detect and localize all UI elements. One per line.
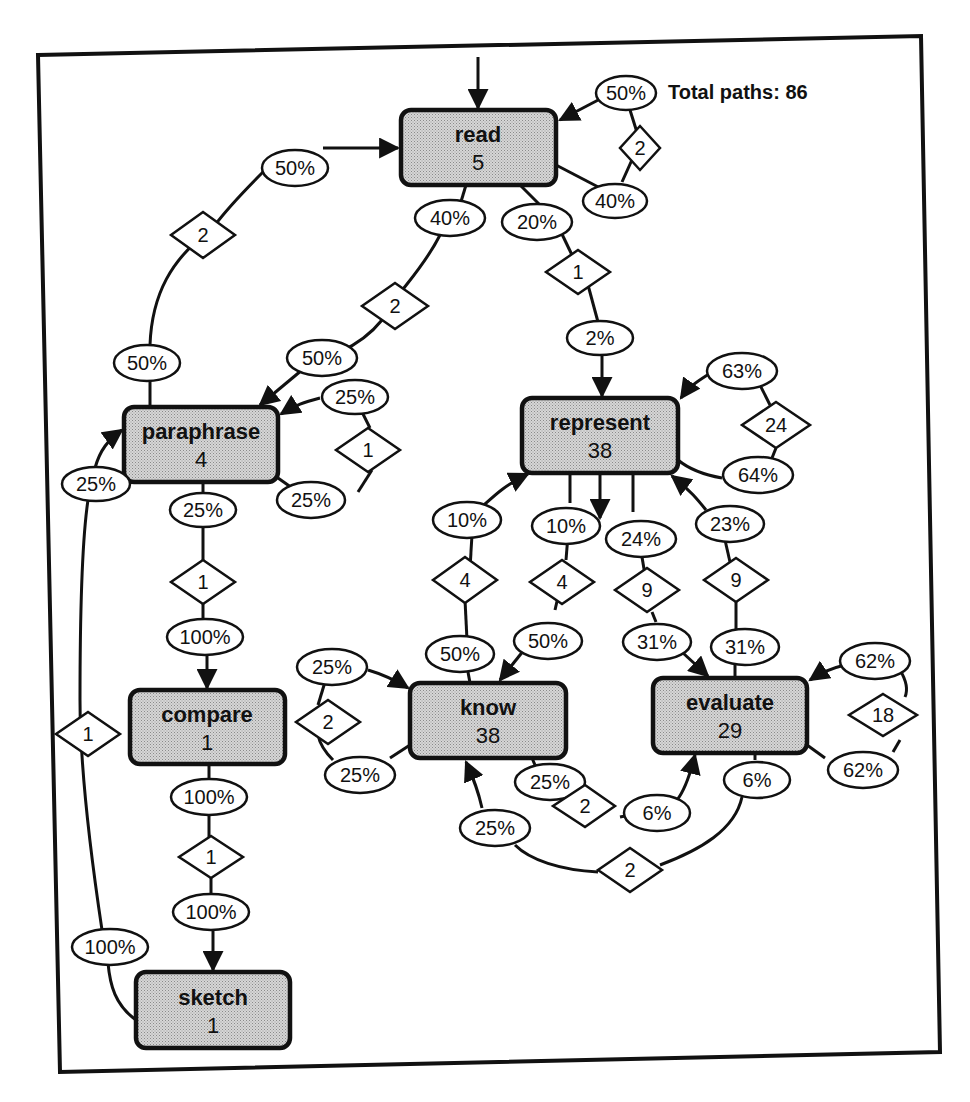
pct-label: 25%: [460, 810, 530, 846]
pct-label: 6%: [724, 762, 790, 798]
pct-label: 25%: [62, 467, 130, 501]
svg-text:2: 2: [624, 859, 635, 881]
node-count: 1: [201, 730, 213, 755]
count-diamond: 1: [336, 428, 400, 472]
node-know: know 38: [410, 683, 566, 758]
pct-label: 50%: [287, 340, 357, 376]
count-diamond: 4: [530, 560, 594, 604]
pct-label: 62%: [828, 752, 898, 788]
node-read: read 5: [401, 110, 556, 185]
count-diamond: 2: [296, 700, 360, 744]
svg-text:40%: 40%: [595, 190, 635, 212]
svg-text:24: 24: [765, 414, 787, 436]
svg-text:25%: 25%: [291, 489, 331, 511]
pct-label: 25%: [297, 649, 367, 685]
svg-text:1: 1: [362, 439, 373, 461]
node-count: 5: [472, 150, 484, 175]
node-represent: represent 38: [522, 398, 678, 473]
svg-text:50%: 50%: [275, 157, 315, 179]
pct-label: 2%: [567, 321, 633, 355]
pct-label: 23%: [696, 506, 764, 542]
count-diamond: 1: [179, 836, 243, 878]
svg-text:62%: 62%: [855, 650, 895, 672]
pct-label: 25%: [325, 757, 395, 793]
svg-text:25%: 25%: [183, 499, 223, 521]
node-sketch: sketch 1: [136, 972, 290, 1048]
count-diamond: 18: [849, 694, 917, 736]
count-diamond: 2: [362, 283, 428, 329]
pct-label: 10%: [532, 508, 600, 544]
svg-text:1: 1: [82, 723, 93, 745]
svg-text:2: 2: [634, 137, 645, 159]
svg-text:25%: 25%: [530, 771, 570, 793]
svg-text:25%: 25%: [312, 656, 352, 678]
pct-label: 20%: [502, 204, 572, 240]
pct-label: 50%: [114, 345, 180, 381]
count-diamond: 9: [615, 568, 679, 612]
pct-label: 31%: [711, 629, 779, 665]
pct-label: 6%: [624, 795, 690, 831]
node-count: 38: [476, 723, 500, 748]
pct-label: 100%: [171, 779, 247, 815]
svg-text:50%: 50%: [440, 643, 480, 665]
pct-label: 40%: [415, 200, 485, 236]
node-name: compare: [161, 702, 253, 727]
count-diamond: 24: [742, 402, 810, 448]
pct-label: 100%: [167, 619, 243, 655]
pct-label: 62%: [840, 643, 910, 679]
svg-text:50%: 50%: [606, 82, 646, 104]
svg-text:100%: 100%: [185, 901, 236, 923]
count-diamond: 1: [546, 250, 610, 294]
svg-text:10%: 10%: [546, 515, 586, 537]
svg-text:1: 1: [572, 261, 583, 283]
svg-text:4: 4: [556, 571, 567, 593]
node-count: 29: [718, 718, 742, 743]
node-name: paraphrase: [142, 419, 261, 444]
svg-text:2%: 2%: [586, 327, 615, 349]
pct-label: 50%: [596, 76, 656, 110]
node-name: evaluate: [686, 690, 774, 715]
svg-text:9: 9: [641, 579, 652, 601]
node-name: represent: [550, 410, 651, 435]
svg-text:50%: 50%: [302, 347, 342, 369]
pct-label: 25%: [170, 493, 236, 527]
svg-text:20%: 20%: [517, 211, 557, 233]
count-diamond: 2: [598, 848, 662, 892]
node-evaluate: evaluate 29: [653, 678, 807, 753]
pct-label: 64%: [723, 457, 793, 493]
svg-text:100%: 100%: [84, 936, 135, 958]
pct-label: 25%: [322, 380, 388, 414]
svg-text:1: 1: [197, 571, 208, 593]
count-diamond: 1: [171, 560, 235, 604]
svg-text:2: 2: [322, 711, 333, 733]
node-count: 38: [588, 438, 612, 463]
svg-text:100%: 100%: [179, 626, 230, 648]
pct-label: 10%: [433, 502, 501, 538]
svg-text:10%: 10%: [447, 509, 487, 531]
count-diamond: 2: [620, 126, 660, 170]
svg-text:2: 2: [197, 224, 208, 246]
pct-label: 50%: [262, 150, 328, 186]
pct-label: 100%: [173, 894, 249, 930]
node-name: sketch: [178, 985, 248, 1010]
transition-diagram: read 5 paraphrase 4 compare 1 sketch 1 r…: [0, 0, 970, 1102]
node-count: 4: [195, 447, 207, 472]
count-diamond: 2: [171, 212, 235, 258]
svg-text:4: 4: [459, 569, 470, 591]
svg-text:2: 2: [579, 795, 590, 817]
node-paraphrase: paraphrase 4: [124, 407, 278, 482]
svg-text:25%: 25%: [335, 386, 375, 408]
pct-label: 31%: [623, 624, 691, 660]
svg-text:25%: 25%: [475, 817, 515, 839]
pct-label: 50%: [514, 623, 582, 659]
svg-text:6%: 6%: [743, 769, 772, 791]
svg-text:9: 9: [730, 569, 741, 591]
svg-text:31%: 31%: [725, 636, 765, 658]
node-name: know: [460, 695, 517, 720]
node-compare: compare 1: [130, 690, 285, 764]
svg-text:40%: 40%: [430, 207, 470, 229]
pct-label: 63%: [707, 353, 777, 389]
pct-label: 40%: [583, 184, 647, 218]
node-name: read: [455, 122, 501, 147]
svg-text:63%: 63%: [722, 360, 762, 382]
